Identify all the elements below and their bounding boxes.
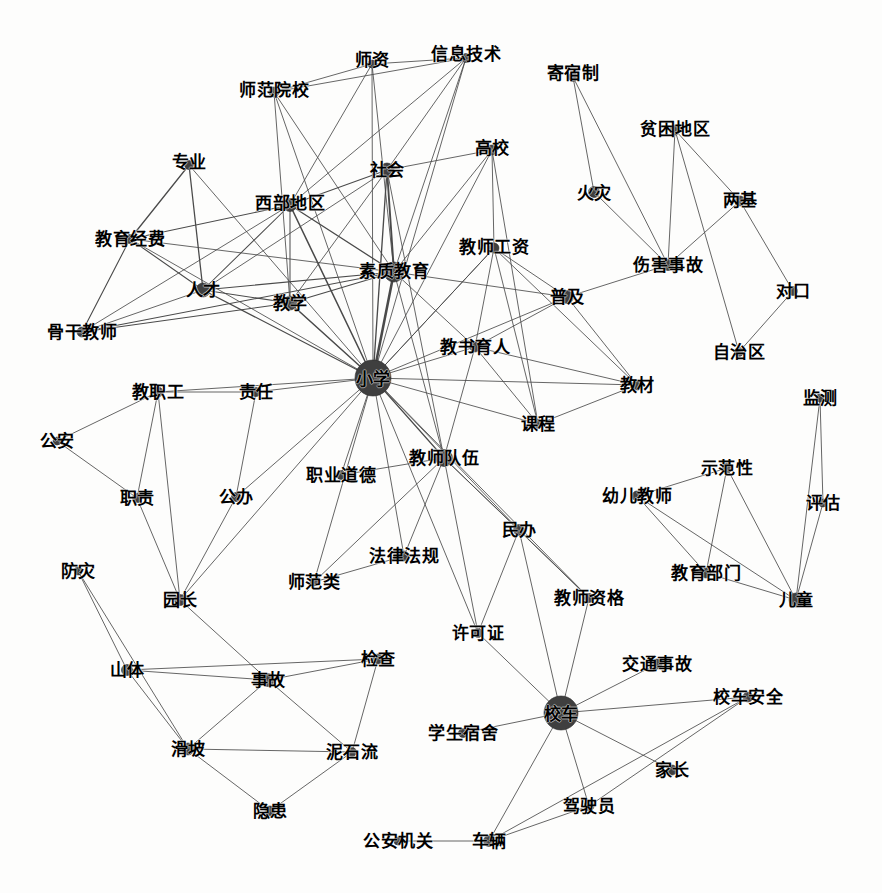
graph-edge [637, 468, 727, 496]
graph-edge [180, 378, 373, 600]
graph-edge [203, 205, 290, 290]
graph-edge [372, 58, 466, 64]
graph-node-hit-shifanxing[interactable] [719, 460, 735, 476]
graph-edge [668, 130, 675, 265]
graph-edge [158, 378, 373, 392]
graph-node-hit-jiancha[interactable] [370, 651, 386, 667]
graph-node-hit-xiaochenanquan[interactable] [740, 689, 756, 705]
graph-node-hit-jiance[interactable] [812, 390, 828, 406]
graph-node-hit-shanghaishigu[interactable] [660, 257, 677, 274]
graph-node-hit-shigu[interactable] [259, 671, 278, 690]
graph-edge [478, 530, 519, 633]
graph-edge [127, 670, 188, 749]
graph-edge [394, 272, 567, 297]
graph-node-hit-shanti[interactable] [119, 662, 136, 679]
graph-node-hit-yuanzhang[interactable] [172, 592, 189, 609]
graph-node-hit-ganganjiguan[interactable] [390, 833, 406, 849]
graph-node-hit-jiaoshuyuren[interactable] [467, 339, 483, 355]
graph-edge [668, 201, 740, 265]
graph-node-hit-jiaoyubumen[interactable] [698, 565, 714, 581]
graph-node-hit-pinggu[interactable] [815, 495, 831, 511]
graph-edge [274, 64, 372, 92]
graph-edge [188, 749, 270, 811]
graph-edge [567, 297, 637, 385]
graph-node-hit-xueshengsushe[interactable] [455, 725, 471, 741]
graph-edge [274, 92, 394, 272]
graph-node-hit-jiaoxue[interactable] [280, 293, 300, 313]
graph-node-hit-xiaoxue[interactable] [352, 357, 394, 399]
graph-node-hit-ertong[interactable] [786, 590, 806, 610]
graph-node-hit-jiazhang[interactable] [664, 762, 680, 778]
graph-edge [373, 378, 589, 598]
graph-edge [489, 806, 589, 841]
graph-edge [475, 297, 567, 347]
network-graph-canvas: 师资信息技术寄宿制师范院校贫困地区高校专业社会西部地区火灾两基教育经费教师工资素… [0, 0, 882, 893]
graph-node-hit-gugantjiaoshi[interactable] [74, 324, 90, 340]
graph-edge [561, 697, 748, 713]
graph-node-hit-nishiliu[interactable] [344, 744, 360, 760]
graph-node-hit-xukezheng[interactable] [470, 625, 486, 641]
graph-node-hit-jiaoshiduiwu[interactable] [433, 447, 456, 470]
graph-edge [394, 58, 466, 272]
graph-edge [538, 385, 637, 424]
graph-edge [594, 192, 668, 265]
graph-node-hit-minban[interactable] [511, 522, 528, 539]
graph-edge [740, 201, 793, 291]
graph-node-hit-zhuanye[interactable] [181, 157, 197, 173]
graph-edge [180, 600, 268, 680]
graph-node-hit-huapo[interactable] [179, 740, 197, 758]
graph-node-hit-zhiyedaode[interactable] [333, 467, 349, 483]
graph-edge [589, 697, 748, 806]
graph-node-hit-yinhuan[interactable] [262, 803, 278, 819]
graph-node-hit-fangzai[interactable] [70, 563, 86, 579]
graph-edge [188, 680, 268, 749]
graph-node-hit-gaoxiao[interactable] [484, 142, 500, 158]
graph-edge [494, 248, 637, 385]
graph-node-hit-rencai[interactable] [193, 280, 213, 300]
graph-edge [137, 498, 180, 600]
graph-node-hit-xiaoche[interactable] [541, 693, 581, 733]
graph-node-hit-zizhiqu[interactable] [731, 344, 747, 360]
graph-node-hit-jiaozhigong[interactable] [150, 384, 166, 400]
graph-node-hit-zeren[interactable] [248, 384, 264, 400]
graph-node-hit-jisuzhi[interactable] [565, 69, 581, 85]
graph-edge [394, 150, 492, 272]
graph-edge [268, 659, 378, 680]
graph-node-hit-gongan[interactable] [49, 433, 65, 449]
graph-node-hit-jiaocai[interactable] [629, 377, 645, 393]
graph-edge [519, 530, 589, 598]
graph-node-hit-jiaoshigongzi[interactable] [486, 240, 502, 256]
graph-edge [57, 441, 137, 498]
graph-node-hit-shifanyuanxiao[interactable] [266, 84, 282, 100]
graph-edge [675, 130, 740, 201]
graph-edge [137, 392, 158, 498]
graph-node-hit-xibudiqu[interactable] [281, 196, 300, 215]
graph-edge [127, 659, 378, 670]
graph-node-hit-shehui[interactable] [377, 160, 397, 180]
graph-node-hit-jiaoshiziige[interactable] [581, 590, 597, 606]
graph-node-hit-jiaoyujingfei[interactable] [122, 231, 138, 247]
graph-edge [236, 392, 256, 497]
graph-node-hit-cheliang[interactable] [481, 833, 498, 850]
graph-node-hit-gongban[interactable] [228, 489, 244, 505]
graph-edge [372, 64, 373, 378]
graph-node-hit-shifanlei[interactable] [306, 574, 322, 590]
graph-node-hit-duikou[interactable] [785, 283, 801, 299]
graph-node-hit-liangji[interactable] [732, 193, 748, 209]
graph-edge [82, 303, 290, 332]
graph-edge [494, 248, 567, 297]
graph-node-hit-jiaotongshigu[interactable] [649, 656, 665, 672]
graph-node-hit-zhize[interactable] [129, 490, 145, 506]
graph-edge [270, 752, 352, 811]
graph-node-hit-jiashiyuan[interactable] [581, 798, 597, 814]
graph-node-hit-huozai[interactable] [586, 184, 603, 201]
graph-node-hit-youerjiaoshi[interactable] [629, 488, 645, 504]
graph-node-hit-xinxijishu[interactable] [458, 50, 474, 66]
graph-node-hit-suzhijiaoyu[interactable] [381, 259, 407, 285]
graph-node-hit-kecheng[interactable] [530, 416, 546, 432]
graph-edge [444, 458, 478, 633]
graph-node-hit-pinkundiqu[interactable] [667, 122, 683, 138]
graph-node-hit-shizi[interactable] [364, 56, 380, 72]
graph-node-hit-pují[interactable] [558, 288, 577, 307]
graph-node-hit-falvfagui[interactable] [396, 548, 412, 564]
